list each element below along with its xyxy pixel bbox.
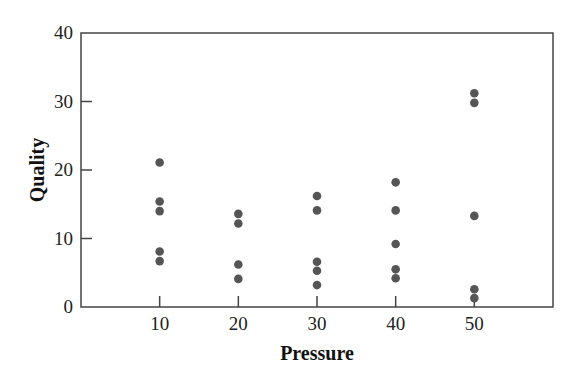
- data-point: [391, 206, 400, 215]
- data-point: [313, 266, 322, 275]
- x-tick-label: 10: [150, 313, 169, 334]
- data-point: [391, 178, 400, 187]
- data-point: [155, 257, 164, 266]
- y-tick-label: 30: [54, 91, 73, 112]
- data-point: [155, 207, 164, 216]
- data-point: [391, 274, 400, 283]
- data-point: [155, 158, 164, 167]
- data-point: [155, 247, 164, 256]
- y-tick-label: 20: [54, 159, 73, 180]
- y-axis-title: Quality: [26, 138, 49, 202]
- data-point: [313, 257, 322, 266]
- y-tick-label: 0: [64, 296, 74, 317]
- scatter-chart: 010203040 1020304050 Pressure Quality: [0, 0, 577, 374]
- data-point: [234, 210, 243, 219]
- data-point: [391, 240, 400, 249]
- x-axis-ticks: 1020304050: [150, 296, 484, 334]
- data-point: [470, 89, 479, 98]
- data-point: [391, 265, 400, 274]
- y-tick-label: 40: [54, 22, 73, 43]
- data-point: [470, 285, 479, 294]
- data-point: [155, 197, 164, 206]
- data-point: [313, 281, 322, 290]
- data-point: [470, 99, 479, 108]
- y-axis-ticks: 010203040: [54, 22, 92, 317]
- data-point: [470, 212, 479, 221]
- data-point: [234, 275, 243, 284]
- x-axis-title: Pressure: [280, 342, 354, 364]
- x-tick-label: 20: [229, 313, 248, 334]
- data-point: [470, 294, 479, 303]
- data-point: [313, 206, 322, 215]
- y-tick-label: 10: [54, 228, 73, 249]
- x-tick-label: 50: [465, 313, 484, 334]
- data-point: [234, 260, 243, 269]
- x-tick-label: 40: [386, 313, 405, 334]
- x-tick-label: 30: [308, 313, 327, 334]
- data-point: [234, 219, 243, 228]
- data-point: [313, 192, 322, 201]
- data-points: [155, 89, 478, 302]
